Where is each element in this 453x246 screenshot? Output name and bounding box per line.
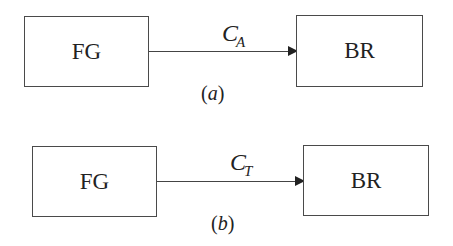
br-label-b: BR [351,168,382,194]
edge-label-a: CA [222,21,245,50]
br-box-a: BR [296,15,423,87]
br-box-b: BR [303,145,429,216]
fg-box-b: FG [32,146,157,217]
edge-label-b: CT [230,150,252,179]
fg-label-a: FG [72,39,101,65]
arrow-a [149,51,296,52]
fg-label-b: FG [80,169,109,195]
arrow-b [157,181,303,182]
br-label-a: BR [344,38,375,64]
caption-b: (b) [211,213,234,233]
fg-box-a: FG [24,16,149,87]
caption-a: (a) [201,83,224,103]
